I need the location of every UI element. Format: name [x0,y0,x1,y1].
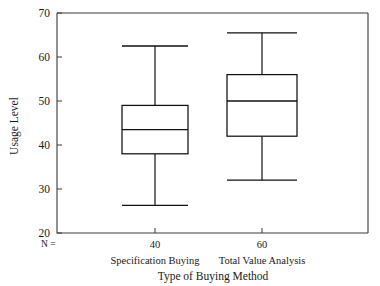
y-tick-label: 30 [39,183,51,195]
y-tick-label: 60 [39,51,51,63]
y-axis-title: Usage Level [8,97,21,155]
x-axis-title: Type of Buying Method [158,270,269,283]
category-labels: Specification BuyingTotal Value Analysis [111,255,306,266]
x-axis-ticks [155,228,262,233]
box-1 [122,46,188,205]
plot-frame [57,13,368,233]
y-tick-label: 20 [39,227,51,239]
y-tick-label: 50 [39,95,51,107]
y-axis-ticks [57,13,62,233]
n-value-1: 40 [150,239,161,250]
category-label-2: Total Value Analysis [219,255,306,266]
box-2 [227,33,297,180]
box-iqr [227,75,297,137]
box-series [122,33,297,205]
n-value-labels: 4060 [150,239,268,250]
category-label-1: Specification Buying [111,255,201,266]
n-row-label: N = [41,239,56,249]
y-tick-label: 70 [39,7,51,19]
n-value-2: 60 [257,239,268,250]
y-tick-label: 40 [39,139,51,151]
plot-canvas: 203040506070 Usage Level Type of Buying … [0,0,380,286]
boxplot-chart: 203040506070 Usage Level Type of Buying … [0,0,380,286]
y-axis-tick-labels: 203040506070 [39,7,51,239]
